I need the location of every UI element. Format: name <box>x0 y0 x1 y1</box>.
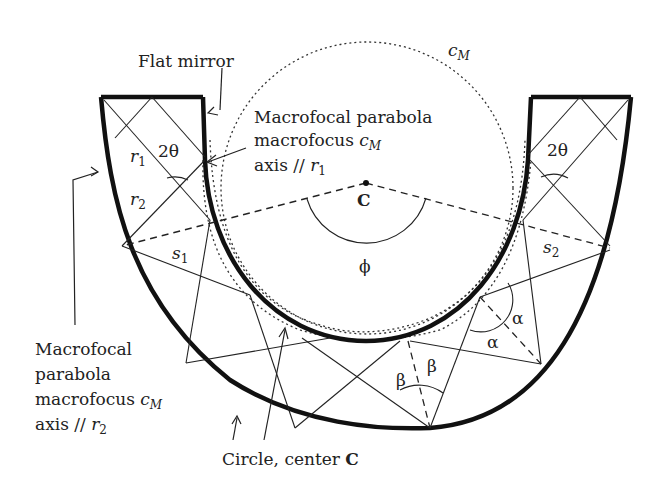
svg-text:axis // r2: axis // r2 <box>35 414 107 437</box>
r1-label: r1 <box>130 146 146 169</box>
two-theta-right-label: 2θ <box>547 140 568 160</box>
center-point-C <box>363 180 369 186</box>
beta-label-2: β <box>427 356 437 376</box>
svg-text:axis // r1: axis // r1 <box>254 155 326 178</box>
alpha-label-2: α <box>487 332 499 352</box>
svg-text:macrofocus cM: macrofocus cM <box>35 389 163 412</box>
cm-label: cM <box>448 40 471 63</box>
alpha-label-1: α <box>512 308 524 328</box>
macrofocal-parabola-r1-label: Macrofocal parabola macrofocus cM axis /… <box>254 107 432 178</box>
r2-label: r2 <box>130 189 146 212</box>
right-box-rays <box>410 97 628 428</box>
svg-text:parabola: parabola <box>35 364 111 384</box>
s2-label: s2 <box>543 237 559 260</box>
svg-text:macrofocus cM: macrofocus cM <box>254 130 382 153</box>
svg-text:Macrofocal parabola: Macrofocal parabola <box>254 107 432 127</box>
phi-label: ϕ <box>359 256 371 276</box>
angle-construction <box>122 174 610 428</box>
circle-center-label: Circle, center C <box>222 449 359 469</box>
concentrator-diagram: Flat mirror Macrofocal parabola macrofoc… <box>0 0 664 498</box>
s1-label: s1 <box>172 243 188 266</box>
two-theta-left-label: 2θ <box>158 141 179 161</box>
center-C-label: C <box>357 190 371 210</box>
macrofocal-parabola-r2-label: Macrofocal parabola macrofocus cM axis /… <box>35 339 163 437</box>
beta-label-1: β <box>396 370 406 390</box>
flat-mirror-label: Flat mirror <box>138 51 235 71</box>
svg-text:Macrofocal: Macrofocal <box>35 339 132 359</box>
